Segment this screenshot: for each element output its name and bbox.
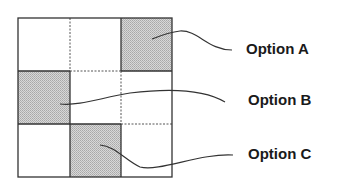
cell-option-c [70, 124, 121, 177]
callout-line-b [60, 90, 225, 104]
label-option-c: Option C [248, 145, 311, 162]
cell-option-b [18, 71, 70, 124]
label-option-b: Option B [248, 91, 311, 108]
cell-option-a [121, 18, 172, 71]
label-option-a: Option A [246, 40, 309, 57]
